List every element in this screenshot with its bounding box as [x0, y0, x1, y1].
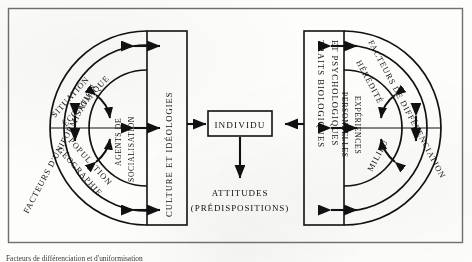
- individual-label: INDIVIDU: [214, 120, 265, 130]
- figure-canvas: FACTEURS D'UNIFORMISATION SITUATION ÉCON…: [0, 0, 472, 262]
- right-factors-group: FACTEURS DE DIFFÉRENCIATION HÉRÉDITÉ MIL…: [304, 31, 448, 225]
- left-inner-arc-label-line1: AGENTS DE: [114, 118, 123, 166]
- left-inner-arrow-upper: [96, 95, 110, 118]
- right-inner-arc-label-line2: PERSONNELLES: [340, 92, 349, 158]
- right-box-label-line2: ET PSYCHOLOGIQUES: [330, 40, 340, 146]
- diagram-svg: FACTEURS D'UNIFORMISATION SITUATION ÉCON…: [0, 0, 472, 262]
- attitudes-label: ATTITUDES: [212, 188, 269, 198]
- attitudes-sub-label: (PRÉDISPOSITIONS): [191, 203, 289, 213]
- figure-caption: Facteurs de différenciation et d'uniform…: [6, 254, 472, 262]
- left-box-label: CULTURE ET IDÉOLOGIES: [164, 91, 174, 217]
- left-factors-group: FACTEURS D'UNIFORMISATION SITUATION ÉCON…: [22, 31, 187, 225]
- center-group: INDIVIDU ATTITUDES (PRÉDISPOSITIONS): [187, 111, 304, 213]
- right-box-label-line1: TRAITS BIOLOGIQUES: [316, 40, 326, 148]
- left-inner-arc-label-line2: SOCIALISATION: [127, 116, 136, 182]
- right-inner-arc-label-line1: EXPÉRIENCES: [353, 96, 363, 154]
